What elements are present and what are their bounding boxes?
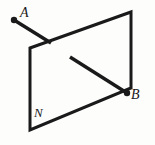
- figure-canvas: [0, 0, 155, 145]
- plane-outline: [30, 12, 131, 130]
- label-point-a: A: [20, 6, 29, 20]
- ray-from-a: [14, 20, 51, 43]
- label-plane-n: N: [34, 106, 43, 119]
- point-a-dot: [11, 17, 17, 23]
- geometry-figure: A B N: [0, 0, 155, 145]
- point-b-dot: [124, 90, 130, 96]
- segment-to-b: [70, 57, 127, 93]
- label-point-b: B: [131, 88, 140, 102]
